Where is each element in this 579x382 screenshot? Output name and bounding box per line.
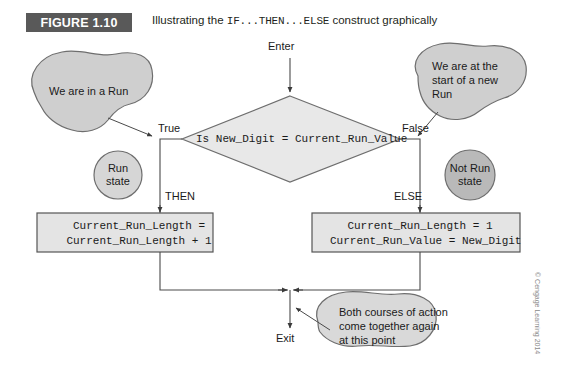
else-label: ELSE bbox=[394, 190, 422, 202]
then-box-line-1: Current_Run_Length = bbox=[64, 219, 214, 234]
false-label: False bbox=[402, 122, 429, 134]
exit-label: Exit bbox=[276, 332, 294, 344]
true-label: True bbox=[158, 122, 180, 134]
left-callout-pointer bbox=[108, 118, 152, 136]
bottom-callout-line-2: come together again bbox=[339, 319, 439, 333]
not-run-state-line-1: Not Run bbox=[442, 162, 498, 175]
run-state-line-2: state bbox=[94, 175, 142, 188]
bottom-callout-line-3: at this point bbox=[339, 333, 395, 347]
else-merge-line bbox=[293, 252, 420, 290]
bottom-callout-line-1: Both courses of action bbox=[339, 305, 448, 319]
flowchart-canvas bbox=[0, 0, 579, 382]
copyright-notice: © Cengage Learning 2014 bbox=[534, 272, 541, 354]
run-state-line-1: Run bbox=[94, 162, 142, 175]
then-label: THEN bbox=[165, 190, 195, 202]
figure-container: FIGURE 1.10 Illustrating the IF...THEN..… bbox=[0, 0, 579, 382]
decision-text: Is New_Digit = Current_Run_Value bbox=[196, 132, 407, 147]
not-run-state-line-2: state bbox=[442, 175, 498, 188]
then-merge-line bbox=[160, 252, 288, 290]
else-box-line-1: Current_Run_Length = 1 bbox=[330, 219, 510, 234]
left-callout-line-1: We are in a Run bbox=[49, 84, 128, 98]
right-callout-line-2: start of a new bbox=[432, 73, 498, 87]
right-callout-line-3: Run bbox=[432, 87, 452, 101]
enter-label: Enter bbox=[268, 40, 294, 52]
else-box-line-2: Current_Run_Value = New_Digit bbox=[330, 234, 510, 249]
then-box-line-2: Current_Run_Length + 1 bbox=[64, 234, 214, 249]
right-callout-line-1: We are at the bbox=[432, 59, 498, 73]
